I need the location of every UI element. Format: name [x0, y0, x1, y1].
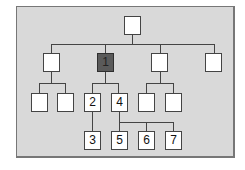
connector [92, 83, 119, 84]
connector [160, 72, 161, 83]
node-root [124, 16, 141, 35]
node-level2-a1 [31, 93, 48, 112]
node-level2-b1: 2 [84, 93, 101, 112]
node-level2-b2: 4 [111, 93, 128, 112]
connector [173, 122, 174, 131]
connector [132, 34, 133, 44]
connector [39, 83, 40, 93]
connector [105, 44, 106, 53]
node-level2-c2 [165, 93, 182, 112]
node-level2-a2 [57, 93, 74, 112]
node-level3-b2b: 6 [138, 131, 155, 150]
connector [173, 83, 174, 93]
connector [65, 83, 66, 93]
node-level1-d [205, 53, 222, 72]
node-level1-b-highlighted: 1 [97, 53, 114, 72]
node-level1-a [43, 53, 60, 72]
node-level2-c1 [138, 93, 155, 112]
connector [92, 83, 93, 93]
node-level1-c [151, 53, 168, 72]
connector [51, 72, 52, 83]
connector [92, 112, 93, 131]
connector [146, 122, 147, 131]
connector [118, 83, 119, 93]
connector [214, 44, 215, 53]
connector [51, 44, 52, 53]
connector [146, 83, 174, 84]
connector [39, 83, 66, 84]
node-level3-b2c: 7 [165, 131, 182, 150]
connector [51, 44, 215, 45]
connector [160, 44, 161, 53]
node-level3-b2a: 5 [111, 131, 128, 150]
connector [146, 83, 147, 93]
node-level3-b1: 3 [84, 131, 101, 150]
connector [105, 72, 106, 83]
